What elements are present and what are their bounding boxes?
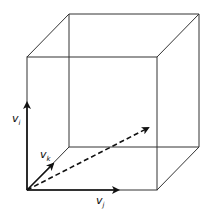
label-vi: vi bbox=[12, 113, 20, 127]
vector-vk-arrow bbox=[27, 164, 53, 190]
label-vk: vk bbox=[40, 149, 51, 163]
cube-wireframe bbox=[27, 14, 199, 190]
cube-vector-diagram bbox=[0, 0, 208, 214]
label-vj: vj bbox=[96, 195, 104, 209]
